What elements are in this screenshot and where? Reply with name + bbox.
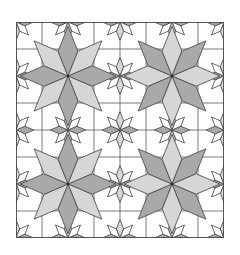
star-center-dot <box>67 75 69 77</box>
star-center-dot <box>171 75 173 77</box>
star-center-dot <box>67 183 69 185</box>
quilt-diagram <box>16 22 224 238</box>
quilt-svg <box>16 22 224 238</box>
star-center-dot <box>171 183 173 185</box>
